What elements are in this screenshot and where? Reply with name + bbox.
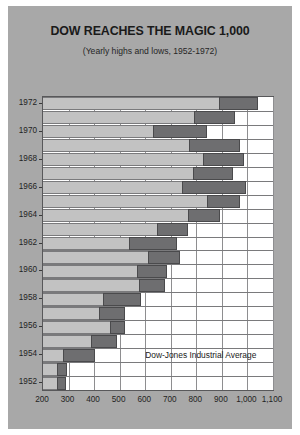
chart-subtitle: (Yearly highs and lows, 1952-1972) bbox=[8, 46, 292, 56]
x-gridline bbox=[273, 97, 274, 390]
range-bar bbox=[137, 265, 167, 278]
range-bar bbox=[99, 307, 125, 320]
y-axis-tick-label: 1958 bbox=[7, 293, 37, 302]
range-bar bbox=[194, 111, 235, 124]
y-axis-tick-label: 1956 bbox=[7, 321, 37, 330]
range-bar bbox=[63, 349, 95, 362]
y-axis-tick-label: 1972 bbox=[7, 98, 37, 107]
range-bar bbox=[157, 223, 188, 236]
range-bar bbox=[193, 167, 233, 180]
y-axis-tick bbox=[39, 243, 42, 244]
y-axis-tick bbox=[39, 298, 42, 299]
range-bar bbox=[148, 251, 180, 264]
range-bar bbox=[189, 139, 240, 152]
range-bar bbox=[110, 321, 125, 334]
range-band bbox=[43, 293, 103, 306]
range-band bbox=[43, 363, 57, 376]
y-axis-tick bbox=[39, 131, 42, 132]
y-axis-tick bbox=[39, 382, 42, 383]
y-axis-tick bbox=[39, 103, 42, 104]
range-band bbox=[43, 237, 129, 250]
range-bar bbox=[219, 97, 257, 110]
row-separator bbox=[43, 376, 273, 377]
y-axis-tick bbox=[39, 354, 42, 355]
y-axis-tick-label: 1952 bbox=[7, 377, 37, 386]
range-band bbox=[43, 349, 63, 362]
range-band bbox=[43, 111, 194, 124]
range-bar bbox=[57, 363, 67, 376]
range-band bbox=[43, 335, 91, 348]
range-band bbox=[43, 125, 153, 138]
y-axis-tick-label: 1954 bbox=[7, 349, 37, 358]
y-axis-tick-label: 1968 bbox=[7, 154, 37, 163]
plot-area: Dow-Jones Industrial Average bbox=[42, 96, 274, 391]
range-bar bbox=[57, 377, 66, 390]
range-band bbox=[43, 251, 148, 264]
range-bar bbox=[91, 335, 117, 348]
range-bar bbox=[188, 209, 220, 222]
range-band bbox=[43, 279, 139, 292]
range-band bbox=[43, 153, 203, 166]
x-axis-tick-label: 1,100 bbox=[252, 395, 292, 404]
y-axis-tick-label: 1970 bbox=[7, 126, 37, 135]
range-band bbox=[43, 223, 157, 236]
range-bar bbox=[182, 181, 246, 194]
chart-figure: DOW REACHES THE MAGIC 1,000 (Yearly high… bbox=[0, 0, 300, 435]
chart-annotation: Dow-Jones Industrial Average bbox=[145, 350, 256, 360]
y-axis-tick-label: 1962 bbox=[7, 238, 37, 247]
range-band bbox=[43, 265, 137, 278]
range-band bbox=[43, 307, 99, 320]
y-axis-tick bbox=[39, 215, 42, 216]
range-bar bbox=[207, 195, 240, 208]
y-axis-tick bbox=[39, 326, 42, 327]
y-axis-tick bbox=[39, 270, 42, 271]
range-band bbox=[43, 167, 193, 180]
x-gridline bbox=[247, 97, 248, 390]
range-band bbox=[43, 97, 219, 110]
y-axis-tick-label: 1964 bbox=[7, 210, 37, 219]
range-bar bbox=[103, 293, 141, 306]
y-axis-tick-label: 1960 bbox=[7, 265, 37, 274]
y-axis-tick-label: 1966 bbox=[7, 182, 37, 191]
y-axis-tick bbox=[39, 187, 42, 188]
range-bar bbox=[153, 125, 207, 138]
range-band bbox=[43, 181, 182, 194]
range-bar bbox=[129, 237, 178, 250]
range-band bbox=[43, 195, 207, 208]
chart-card: DOW REACHES THE MAGIC 1,000 (Yearly high… bbox=[8, 6, 292, 429]
range-bar bbox=[203, 153, 244, 166]
range-band bbox=[43, 209, 188, 222]
y-axis-tick bbox=[39, 159, 42, 160]
range-band bbox=[43, 139, 189, 152]
range-bar bbox=[139, 279, 166, 292]
range-band bbox=[43, 377, 57, 390]
range-band bbox=[43, 321, 110, 334]
row-separator bbox=[43, 362, 273, 363]
chart-title: DOW REACHES THE MAGIC 1,000 bbox=[8, 24, 292, 38]
